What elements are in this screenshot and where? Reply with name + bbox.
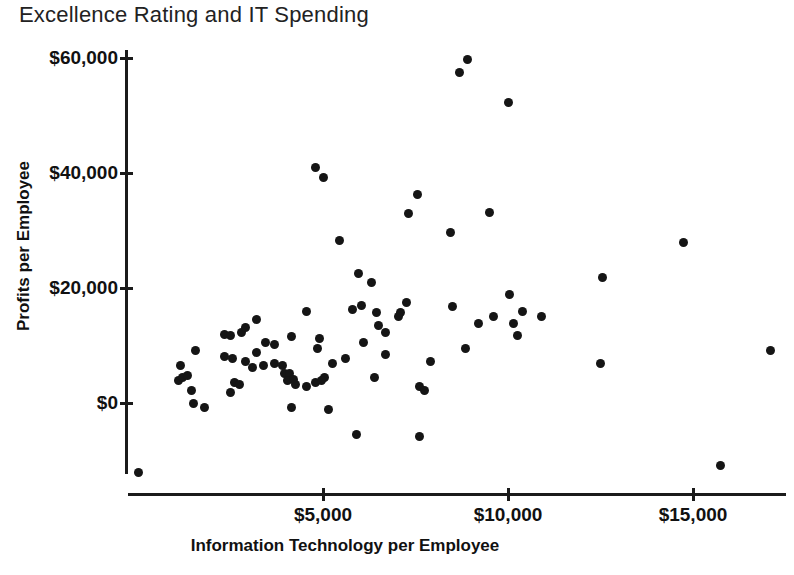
y-axis-title: Profits per Employee bbox=[14, 161, 34, 331]
data-point bbox=[446, 228, 455, 237]
data-point bbox=[357, 301, 366, 310]
data-point bbox=[679, 238, 688, 247]
data-point bbox=[189, 399, 198, 408]
data-point bbox=[402, 298, 411, 307]
y-tick-mark bbox=[120, 402, 133, 405]
data-point bbox=[226, 388, 235, 397]
x-tick-mark bbox=[507, 488, 510, 501]
data-point bbox=[134, 468, 143, 477]
y-tick-mark bbox=[120, 287, 133, 290]
data-point bbox=[328, 359, 337, 368]
data-point bbox=[302, 307, 311, 316]
data-point bbox=[252, 315, 261, 324]
data-point bbox=[509, 319, 518, 328]
data-point bbox=[537, 312, 546, 321]
data-point bbox=[598, 273, 607, 282]
y-tick-label: $0 bbox=[30, 392, 118, 414]
x-tick-mark bbox=[322, 488, 325, 501]
data-point bbox=[352, 430, 361, 439]
data-point bbox=[226, 331, 235, 340]
y-tick-mark bbox=[120, 172, 133, 175]
data-point bbox=[261, 338, 270, 347]
data-point bbox=[319, 173, 328, 182]
data-point bbox=[463, 55, 472, 64]
data-point bbox=[228, 354, 237, 363]
data-point bbox=[394, 312, 403, 321]
data-point bbox=[324, 405, 333, 414]
data-point bbox=[235, 380, 244, 389]
y-tick-label: $20,000 bbox=[30, 277, 118, 299]
data-point bbox=[335, 236, 344, 245]
y-tick-label: $60,000 bbox=[30, 47, 118, 69]
data-point bbox=[317, 376, 326, 385]
data-point bbox=[420, 386, 429, 395]
data-point bbox=[287, 403, 296, 412]
data-point bbox=[241, 323, 250, 332]
data-point bbox=[474, 319, 483, 328]
data-point bbox=[302, 382, 311, 391]
data-point bbox=[381, 350, 390, 359]
x-axis-line bbox=[128, 493, 786, 496]
data-point bbox=[370, 373, 379, 382]
data-point bbox=[278, 361, 287, 370]
data-point bbox=[176, 361, 185, 370]
data-point bbox=[200, 403, 209, 412]
data-point bbox=[448, 302, 457, 311]
data-point bbox=[426, 357, 435, 366]
data-point bbox=[359, 338, 368, 347]
data-point bbox=[716, 461, 725, 470]
data-point bbox=[270, 340, 279, 349]
data-point bbox=[354, 269, 363, 278]
x-tick-label: $5,000 bbox=[273, 504, 373, 526]
y-axis-line bbox=[125, 50, 128, 474]
data-point bbox=[461, 344, 470, 353]
data-point bbox=[489, 312, 498, 321]
y-tick-label: $40,000 bbox=[30, 162, 118, 184]
scatter-plot: Excellence Rating and IT Spending Profit… bbox=[0, 0, 794, 575]
x-tick-label: $15,000 bbox=[643, 504, 743, 526]
data-point bbox=[372, 308, 381, 317]
data-point bbox=[381, 328, 390, 337]
data-point bbox=[259, 361, 268, 370]
data-point bbox=[252, 348, 261, 357]
y-tick-mark bbox=[120, 57, 133, 60]
data-point bbox=[485, 208, 494, 217]
data-point bbox=[313, 344, 322, 353]
data-point bbox=[413, 190, 422, 199]
data-point bbox=[518, 307, 527, 316]
data-point bbox=[404, 209, 413, 218]
data-point bbox=[513, 331, 522, 340]
x-tick-mark bbox=[692, 488, 695, 501]
chart-title: Excellence Rating and IT Spending bbox=[19, 2, 369, 28]
data-point bbox=[415, 432, 424, 441]
data-point bbox=[505, 290, 514, 299]
x-tick-label: $10,000 bbox=[458, 504, 558, 526]
x-axis-title: Information Technology per Employee bbox=[191, 536, 500, 556]
data-point bbox=[315, 334, 324, 343]
data-point bbox=[311, 163, 320, 172]
data-point bbox=[191, 346, 200, 355]
data-point bbox=[504, 98, 513, 107]
data-point bbox=[183, 371, 192, 380]
data-point bbox=[596, 359, 605, 368]
data-point bbox=[766, 346, 775, 355]
data-point bbox=[455, 68, 464, 77]
data-point bbox=[287, 332, 296, 341]
data-point bbox=[367, 278, 376, 287]
data-point bbox=[341, 354, 350, 363]
data-point bbox=[187, 386, 196, 395]
data-point bbox=[348, 305, 357, 314]
data-point bbox=[291, 380, 300, 389]
data-point bbox=[248, 363, 257, 372]
